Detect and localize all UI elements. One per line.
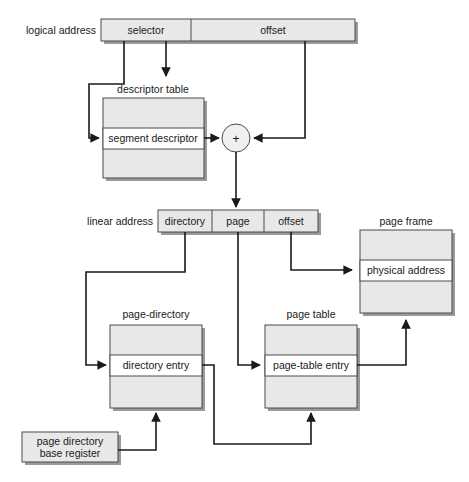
descriptor-table-caption: descriptor table (117, 83, 189, 95)
pdbr-label-line2: base register (40, 447, 101, 459)
offset-logical-label: offset (260, 24, 286, 36)
address-translation-diagram: selector offset logical address descript… (0, 0, 469, 482)
pdbr-to-page-directory-line (118, 413, 156, 450)
adder-group: + (222, 124, 250, 152)
segment-descriptor-label: segment descriptor (108, 132, 198, 144)
physical-address-label: physical address (367, 264, 445, 276)
page-directory-base-register-group: page directory base register (22, 432, 121, 465)
logical-address-caption: logical address (26, 24, 96, 36)
offset-linear-label: offset (278, 215, 304, 227)
page-table-caption: page table (286, 308, 335, 320)
selector-label: selector (128, 24, 165, 36)
pdbr-label-line1: page directory (37, 435, 104, 447)
directory-entry-label: directory entry (123, 359, 190, 371)
adder-plus-sign: + (232, 132, 239, 146)
descriptor-table-group: descriptor table segment descriptor (103, 83, 207, 181)
page-to-page-table-entry-line (238, 232, 260, 365)
linear-address-group: directory page offset linear address (87, 210, 321, 235)
offset-to-physical-address-line (291, 232, 352, 270)
page-table-entry-to-page-frame-line (357, 320, 406, 365)
linear-address-caption: linear address (87, 215, 153, 227)
page-frame-caption: page frame (379, 215, 432, 227)
offset-to-adder-line (254, 41, 305, 138)
page-table-entry-label: page-table entry (273, 359, 350, 371)
page-table-group: page table page-table entry (265, 308, 360, 411)
directory-field-label: directory (165, 215, 206, 227)
page-frame-group: page frame physical address (360, 215, 455, 316)
page-directory-caption: page-directory (122, 308, 190, 320)
logical-address-group: selector offset logical address (26, 19, 358, 44)
page-field-label: page (226, 215, 250, 227)
page-directory-group: page-directory directory entry (110, 308, 205, 411)
